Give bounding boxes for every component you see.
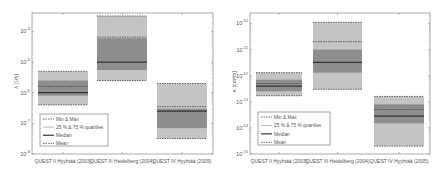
legend-quartiles-label: 25 % & 75 % quartiles [56, 125, 104, 130]
left-box-chart: QUEST II Hyyhtää (2003)QUEST III Heidelb… [0, 0, 221, 171]
quartile-range [313, 50, 362, 73]
box-2 [97, 16, 147, 81]
x-tick-label: QUEST IV Hyyhtää (2005) [370, 158, 429, 164]
right-box-chart: QUEST II Hyyhtää (2003)QUEST III Heidelb… [220, 0, 443, 171]
left-chart-panel: QUEST II Hyyhtää (2003)QUEST III Heidelb… [0, 0, 221, 171]
quartile-range [38, 81, 88, 96]
y-tick-label: 10-5 [20, 57, 30, 65]
quartile-range [374, 104, 424, 123]
legend-min-max-label: Min & Max [56, 117, 79, 122]
x-tick-label: QUEST II Hyyhtää (2003) [35, 158, 92, 164]
legend-mean-label: Mean [274, 140, 286, 145]
y-tick-label: 10-8 [20, 149, 30, 157]
y-tick-label: 10-6 [20, 88, 30, 96]
y-tick-label: 10-14 [236, 123, 249, 131]
box-3 [157, 84, 207, 139]
y-axis-label: λ [1/s] [13, 74, 19, 89]
y-tick-label: 10-13 [236, 97, 249, 105]
box-3 [374, 96, 424, 146]
quartile-range [97, 38, 147, 70]
y-tick-label: 10-7 [20, 118, 30, 126]
x-tick-label: QUEST II Hyyhtää (2003) [251, 158, 308, 164]
legend-min-max-label: Min & Max [274, 115, 297, 120]
y-tick-label: 10-11 [236, 45, 248, 53]
x-tick-label: QUEST IV Hyyhtää (2005) [153, 158, 212, 164]
y-tick-label: 10-10 [236, 18, 249, 26]
legend: Min & Max25 % & 75 % quartilesMedianMean [258, 112, 330, 145]
legend-median-label: Median [274, 132, 290, 137]
legend-median-label: Median [56, 133, 72, 138]
right-chart-panel: QUEST II Hyyhtää (2003)QUEST III Heidelb… [220, 0, 443, 171]
legend: Min & Max25 % & 75 % quartilesMedianMean [40, 114, 108, 146]
x-tick-label: QUEST III Heidelberg (2004) [305, 158, 369, 164]
y-tick-label: 10-12 [236, 71, 249, 79]
y-axis-label: κ [cm²/s] [231, 71, 237, 92]
legend-mean-label: Mean [56, 141, 68, 146]
y-tick-label: 10-4 [20, 26, 30, 34]
x-tick-label: QUEST III Heidelberg (2004) [90, 158, 154, 164]
y-tick-label: 10-15 [236, 149, 249, 157]
legend-quartiles-label: 25 % & 75 % quartiles [274, 123, 322, 128]
box-1 [256, 73, 302, 96]
box-2 [313, 22, 362, 89]
box-1 [38, 71, 88, 105]
